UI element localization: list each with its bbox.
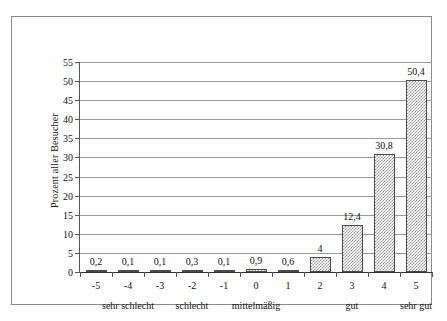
x-axis-tick xyxy=(144,272,145,277)
bar xyxy=(342,225,363,272)
gridline xyxy=(80,138,432,139)
category-group-label: schlecht xyxy=(176,300,209,311)
x-axis-tick xyxy=(400,272,401,277)
x-axis-tick-label: -2 xyxy=(188,280,196,291)
y-axis-tick xyxy=(75,196,80,197)
y-axis-tick-label: 20 xyxy=(63,190,73,201)
x-axis-tick xyxy=(432,272,433,277)
y-axis-tick xyxy=(75,253,80,254)
x-axis-tick-label: -1 xyxy=(220,280,228,291)
bar-value-label: 0,2 xyxy=(90,256,103,267)
y-axis-tick xyxy=(75,62,80,63)
bar-value-label: 12,4 xyxy=(343,211,361,222)
bar-value-label: 50,4 xyxy=(407,66,425,77)
y-axis-tick-label: 5 xyxy=(68,247,73,258)
x-axis-tick-label: 0 xyxy=(254,280,259,291)
x-axis-tick-label: 3 xyxy=(350,280,355,291)
y-axis-tick-label: 25 xyxy=(63,171,73,182)
x-axis-tick xyxy=(208,272,209,277)
y-axis-tick xyxy=(75,119,80,120)
x-axis-tick-label: -5 xyxy=(92,280,100,291)
y-axis-tick-label: 10 xyxy=(63,228,73,239)
bar-value-label: 0,1 xyxy=(154,256,167,267)
x-axis-tick xyxy=(336,272,337,277)
x-axis-tick xyxy=(240,272,241,277)
y-axis-tick-label: 35 xyxy=(63,133,73,144)
y-axis-tick xyxy=(75,234,80,235)
x-axis-tick xyxy=(272,272,273,277)
y-axis-tick-label: 45 xyxy=(63,95,73,106)
gridline xyxy=(80,119,432,120)
bar-value-label: 0,9 xyxy=(250,255,263,266)
bar-value-label: 0,3 xyxy=(186,256,199,267)
bar xyxy=(278,270,299,273)
x-axis-tick xyxy=(112,272,113,277)
x-axis-tick xyxy=(304,272,305,277)
figure-frame: Prozent aller Besucher 05101520253035404… xyxy=(11,16,432,305)
y-axis-tick-label: 55 xyxy=(63,57,73,68)
bar xyxy=(182,270,203,273)
x-axis-tick-label: 2 xyxy=(318,280,323,291)
y-axis-title: Prozent aller Besucher xyxy=(49,76,60,246)
bar xyxy=(150,270,171,273)
y-axis-tick xyxy=(75,100,80,101)
y-axis-tick-label: 30 xyxy=(63,152,73,163)
y-axis-tick-label: 50 xyxy=(63,76,73,87)
y-axis-tick xyxy=(75,138,80,139)
x-axis-tick-label: -3 xyxy=(156,280,164,291)
gridline xyxy=(80,81,432,82)
x-axis-tick xyxy=(176,272,177,277)
y-axis-tick-label: 40 xyxy=(63,114,73,125)
y-axis-tick-label: 0 xyxy=(68,267,73,278)
bar xyxy=(118,270,139,273)
bar-value-label: 0,6 xyxy=(282,256,295,267)
bar xyxy=(86,270,107,273)
x-axis-tick-label: 4 xyxy=(382,280,387,291)
bar-value-label: 30,8 xyxy=(375,140,393,151)
bar xyxy=(374,154,395,272)
gridline xyxy=(80,62,432,63)
x-axis-tick-label: 1 xyxy=(286,280,291,291)
category-group-label: mittelmäßig xyxy=(232,300,280,311)
x-axis-tick xyxy=(80,272,81,277)
bar xyxy=(246,269,267,272)
bar-value-label: 0,1 xyxy=(122,256,135,267)
gridline xyxy=(80,272,432,273)
plot-area: 0510152025303540455055 0,20,10,10,30,10,… xyxy=(79,62,432,273)
x-axis-tick-label: -4 xyxy=(124,280,132,291)
category-group-label: gut xyxy=(346,300,359,311)
category-group-label: sehr schlecht xyxy=(102,300,154,311)
category-group-label: sehr gut xyxy=(400,300,432,311)
bar xyxy=(406,80,427,272)
y-axis-tick xyxy=(75,157,80,158)
y-axis-tick xyxy=(75,177,80,178)
y-axis-tick xyxy=(75,215,80,216)
bar-value-label: 0,1 xyxy=(218,256,231,267)
bar-value-label: 4 xyxy=(318,243,323,254)
bar xyxy=(214,270,235,273)
y-axis-tick-label: 15 xyxy=(63,209,73,220)
gridline xyxy=(80,100,432,101)
bar xyxy=(310,257,331,272)
x-axis-tick-label: 5 xyxy=(414,280,419,291)
x-axis-tick xyxy=(368,272,369,277)
chart-figure: Prozent aller Besucher 05101520253035404… xyxy=(0,0,447,321)
y-axis-tick xyxy=(75,81,80,82)
